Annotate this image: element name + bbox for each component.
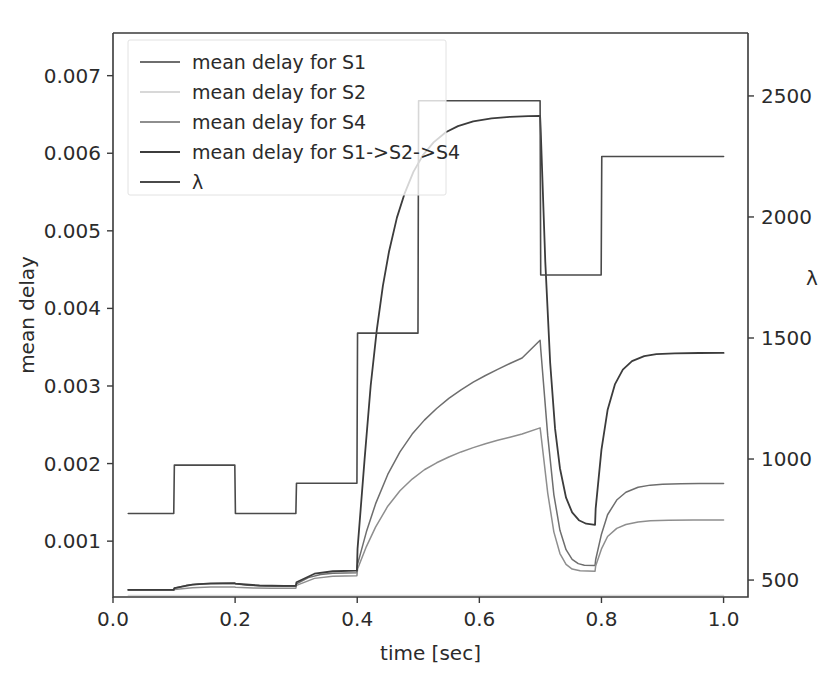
- y2-tick-label: 2000: [761, 205, 812, 229]
- y2-tick-label: 1000: [761, 447, 812, 471]
- x-axis-title: time [sec]: [380, 641, 481, 665]
- x-tick-label: 1.0: [708, 607, 740, 631]
- y-tick-label: 0.007: [44, 64, 101, 88]
- y2-tick-label: 2500: [761, 84, 812, 108]
- legend-label-1: mean delay for S2: [192, 81, 366, 103]
- legend-label-4: λ: [192, 171, 203, 193]
- legend-label-2: mean delay for S4: [192, 111, 366, 133]
- y-tick-label: 0.002: [44, 452, 101, 476]
- chart-canvas: 0.00.20.40.60.81.0 0.0010.0020.0030.0040…: [0, 0, 840, 680]
- legend-label-3: mean delay for S1->S2->S4: [192, 141, 460, 163]
- y-tick-label: 0.004: [44, 296, 101, 320]
- x-tick-label: 0.4: [341, 607, 373, 631]
- x-tick-label: 0.6: [463, 607, 495, 631]
- chart-figure: 0.00.20.40.60.81.0 0.0010.0020.0030.0040…: [0, 0, 840, 680]
- legend: mean delay for S1mean delay for S2mean d…: [128, 40, 460, 195]
- y-tick-label: 0.005: [44, 219, 101, 243]
- y2-tick-label: 1500: [761, 326, 812, 350]
- legend-label-0: mean delay for S1: [192, 51, 366, 73]
- x-tick-label: 0.2: [219, 607, 251, 631]
- x-tick-label: 0.8: [586, 607, 618, 631]
- secondary-y-axis-title: λ: [806, 266, 818, 290]
- y-tick-label: 0.006: [44, 141, 101, 165]
- x-tick-label: 0.0: [97, 607, 129, 631]
- y2-tick-label: 500: [761, 568, 799, 592]
- y-tick-label: 0.001: [44, 529, 101, 553]
- y-tick-label: 0.003: [44, 374, 101, 398]
- y-axis-title: mean delay: [15, 256, 39, 374]
